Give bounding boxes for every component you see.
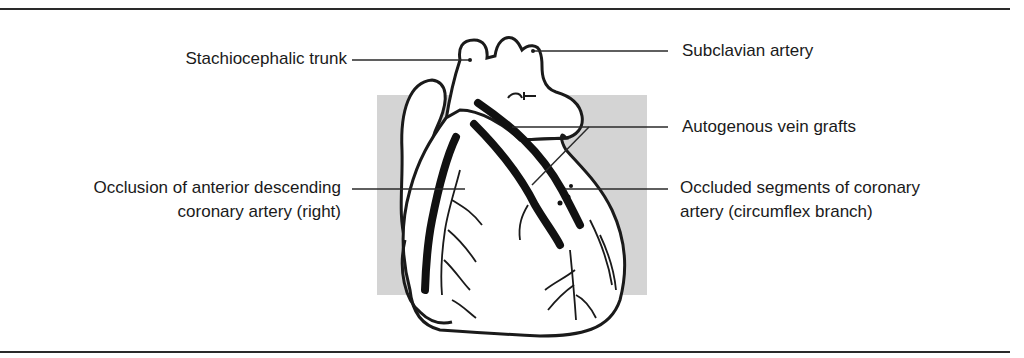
label-subclavian-artery: Subclavian artery (682, 39, 813, 63)
label-occlusion-anterior-line2: coronary artery (right) (93, 200, 341, 224)
label-occluded-segments-line2: artery (circumflex branch) (680, 200, 920, 224)
label-occlusion-anterior: Occlusion of anterior descending coronar… (93, 176, 341, 224)
label-occluded-segments: Occluded segments of coronary artery (ci… (680, 176, 920, 224)
label-stachiocephalic-trunk: Stachiocephalic trunk (185, 47, 347, 71)
label-autogenous-vein-grafts: Autogenous vein grafts (682, 115, 856, 139)
label-occlusion-anterior-line1: Occlusion of anterior descending (93, 176, 341, 200)
label-occluded-segments-line1: Occluded segments of coronary (680, 176, 920, 200)
